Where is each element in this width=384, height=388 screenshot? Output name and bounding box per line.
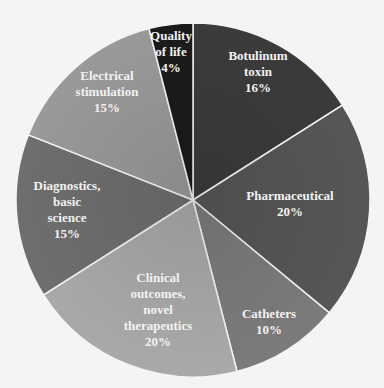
pie-chart: Botulinumtoxin16%Pharmaceutical20%Cathet… [0, 0, 384, 388]
pie-chart-svg: Botulinumtoxin16%Pharmaceutical20%Cathet… [0, 0, 384, 388]
